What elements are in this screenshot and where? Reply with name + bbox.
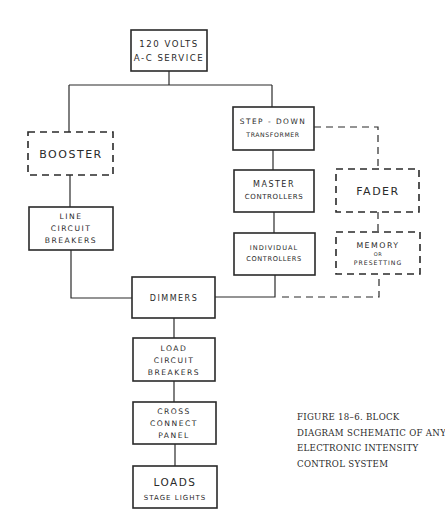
node-memory-presetting: MEMORY OR PRESETTING [336, 232, 420, 274]
node-ac-service: 120 VOLTS A-C SERVICE [131, 30, 207, 71]
node-label: CROSS [157, 407, 191, 416]
node-label: CONTROLLERS [245, 193, 303, 201]
node-fader: FADER [336, 169, 419, 212]
node-label: 120 VOLTS [139, 39, 198, 49]
node-dimmers: DIMMERS [132, 277, 215, 318]
node-label: LOAD [161, 344, 188, 353]
node-label: A-C SERVICE [134, 53, 204, 63]
node-label: BREAKERS [45, 236, 97, 245]
node-booster: BOOSTER [28, 132, 113, 175]
caption-line: CONTROL SYSTEM [297, 457, 445, 473]
node-label: CONTROLLERS [246, 255, 301, 263]
node-label: TRANSFORMER [245, 131, 300, 138]
node-label: STEP - DOWN [240, 117, 307, 126]
node-label: PANEL [158, 431, 190, 440]
node-label: BOOSTER [39, 148, 102, 161]
node-label: STAGE LIGHTS [144, 494, 206, 502]
node-load-circuit-breakers: LOAD CIRCUIT BREAKERS [133, 338, 215, 381]
node-label: INDIVIDUAL [250, 244, 298, 252]
node-label: CONNECT [150, 419, 198, 428]
connector-individual-dimmers [215, 275, 275, 297]
node-line-circuit-breakers: LINE CIRCUIT BREAKERS [29, 207, 113, 250]
connector-memory-dimmers [282, 274, 379, 297]
node-label: PRESETTING [354, 259, 402, 266]
node-cross-connect-panel: CROSS CONNECT PANEL [133, 402, 216, 444]
node-label: LINE [60, 212, 83, 221]
figure-caption: FIGURE 18–6. BLOCK DIAGRAM SCHEMATIC OF … [297, 410, 445, 472]
node-label: MASTER [253, 180, 295, 189]
node-label: OR [374, 251, 382, 257]
caption-line: ELECTRONIC INTENSITY [297, 441, 445, 457]
caption-line: DIAGRAM SCHEMATIC OF ANY [297, 426, 445, 442]
node-label: MEMORY [356, 241, 399, 250]
node-step-down-transformer: STEP - DOWN TRANSFORMER [233, 107, 314, 150]
node-label: CIRCUIT [154, 356, 195, 365]
node-individual-controllers: INDIVIDUAL CONTROLLERS [234, 233, 315, 275]
caption-line: FIGURE 18–6. BLOCK [297, 410, 445, 426]
node-label: LOADS [154, 476, 197, 488]
node-label: CIRCUIT [51, 224, 92, 233]
node-master-controllers: MASTER CONTROLLERS [234, 170, 314, 212]
connector-step-down-fader [314, 127, 378, 169]
node-loads-stage-lights: LOADS STAGE LIGHTS [133, 466, 217, 508]
node-label: FADER [356, 185, 399, 198]
node-label: BREAKERS [148, 368, 200, 377]
connector-line-cb-dimmers [71, 250, 132, 298]
node-label: DIMMERS [150, 294, 199, 303]
